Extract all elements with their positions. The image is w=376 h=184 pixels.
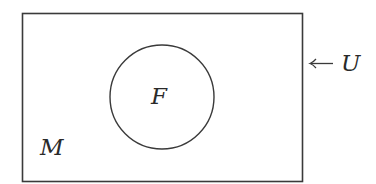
set-f-label: F xyxy=(151,85,167,108)
region-m-label: M xyxy=(40,136,64,159)
venn-diagram: F M U xyxy=(0,0,376,184)
universe-u-label: U xyxy=(341,52,360,75)
